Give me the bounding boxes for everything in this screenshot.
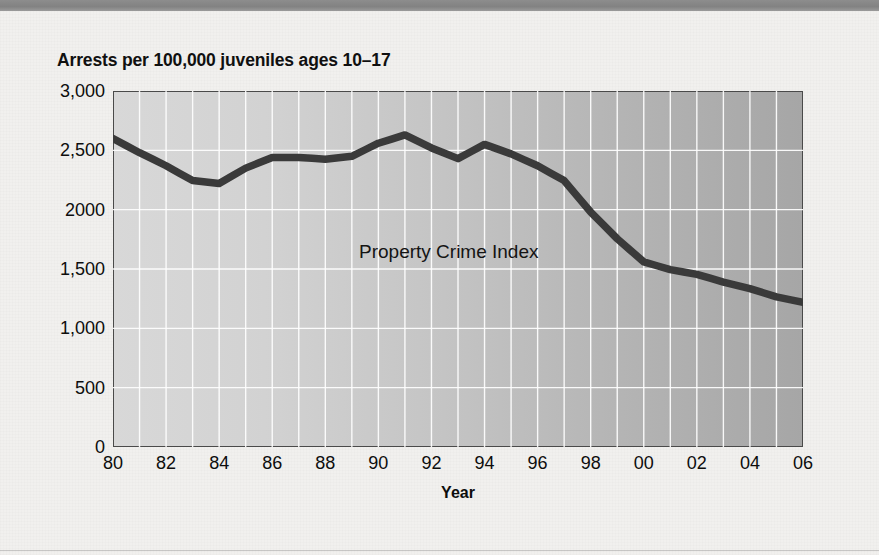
x-axis-tick: 84: [209, 453, 229, 474]
series-annotation-label: Property Crime Index: [359, 241, 539, 263]
y-axis-tick: 1,000: [13, 318, 105, 339]
x-axis-tick: 96: [528, 453, 548, 474]
plot-area: Property Crime Index: [113, 91, 803, 447]
y-axis-tick: 500: [13, 377, 105, 398]
property-crime-index-line: [113, 91, 803, 447]
x-axis-tick-labels: 8082848688909294969800020406: [113, 453, 803, 477]
y-axis-tick: 3,000: [13, 81, 105, 102]
x-axis-tick: 90: [368, 453, 388, 474]
x-axis-tick: 92: [421, 453, 441, 474]
y-axis-tick: 2000: [13, 199, 105, 220]
x-axis-tick: 88: [315, 453, 335, 474]
x-axis-tick: 82: [156, 453, 176, 474]
x-axis-tick: 00: [634, 453, 654, 474]
x-axis-tick: 02: [687, 453, 707, 474]
bottom-hairline: [0, 550, 879, 551]
y-axis-tick: 1,500: [13, 259, 105, 280]
x-axis-tick: 04: [740, 453, 760, 474]
x-axis-tick: 94: [475, 453, 495, 474]
top-rule-bar: [0, 0, 879, 11]
x-axis-tick: 06: [793, 453, 813, 474]
x-axis-tick: 98: [581, 453, 601, 474]
chart-title: Arrests per 100,000 juveniles ages 10–17: [57, 50, 391, 71]
y-axis-tick-labels: 3,0002,50020001,5001,0005000: [9, 91, 105, 447]
x-axis-tick: 80: [103, 453, 123, 474]
y-axis-tick: 2,500: [13, 140, 105, 161]
y-axis-tick: 0: [13, 437, 105, 458]
x-axis-tick: 86: [262, 453, 282, 474]
x-axis-label: Year: [113, 484, 803, 502]
